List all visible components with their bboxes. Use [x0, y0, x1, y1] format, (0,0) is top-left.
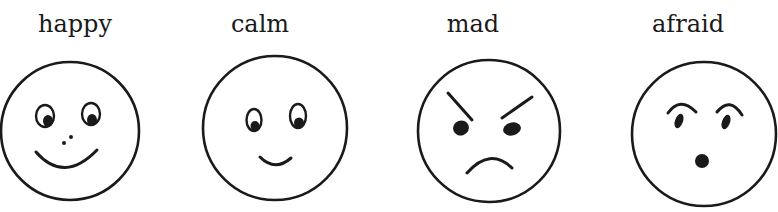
- mad-face-icon: [418, 60, 560, 202]
- calm-face-icon: [203, 56, 347, 200]
- happy-face-icon: [1, 62, 139, 200]
- emotion-faces-diagram: [0, 0, 778, 212]
- afraid-face-icon: [632, 62, 776, 206]
